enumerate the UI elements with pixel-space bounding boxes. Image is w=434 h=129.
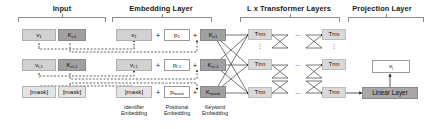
- linear-layer-box: Linear Layer: [362, 87, 418, 99]
- transformer-horizontal-ellipsis-row2: ...: [290, 61, 306, 68]
- embedding-identifier-row2-label: vl-1: [130, 62, 138, 68]
- embedding-identifier-row1: v1: [116, 29, 152, 41]
- input-identifier-row1: v1: [22, 29, 56, 41]
- embedding-identifier-row3-label: [mask]: [125, 89, 143, 95]
- input-identifier-row2-label: vl-1: [35, 62, 43, 68]
- linear-layer-label: Linear Layer: [372, 90, 408, 96]
- caption-positional-embedding-line1: Positional: [166, 104, 189, 110]
- transformer-col2-vertical-ellipsis: ⋮: [322, 45, 346, 48]
- embedding-plus-row2-b: +: [191, 62, 199, 69]
- projection-output-box: vl: [372, 60, 410, 73]
- caption-keyword-embedding: Keyword Embedding: [191, 104, 239, 116]
- embedding-keyword-row2-label: Kvl-1: [207, 62, 218, 68]
- embedding-plus-row2-a: +: [154, 62, 162, 69]
- transformer-cell-col2-row3-label: Trm: [329, 89, 340, 95]
- input-keyword-row1: Kv1: [58, 29, 86, 41]
- transformer-cell-col2-row1-label: Trm: [329, 31, 340, 37]
- caption-identifier-embedding: Identifier Embedding: [110, 104, 158, 116]
- transformer-horizontal-ellipsis-row1: ...: [290, 31, 306, 38]
- caption-keyword-embedding-line2: Embedding: [202, 110, 228, 116]
- input-vertical-ellipsis-2: ⋮: [22, 74, 56, 77]
- transformer-cell-col2-row2-label: Trm: [329, 61, 340, 67]
- projection-output-label: vl: [389, 63, 393, 69]
- transformer-cell-col2-row1: Trm: [322, 29, 346, 40]
- transformer-cell-col1-row1-label: Trm: [255, 31, 266, 37]
- input-keyword-row2: Kvl-1: [58, 59, 86, 71]
- diagram-canvas: Input Embedding Layer L x Transformer La…: [0, 0, 434, 129]
- transformer-cell-col1-row1: Trm: [248, 29, 272, 40]
- embedding-plus-row1-b: +: [191, 32, 199, 39]
- input-identifier-row3-label: [mask]: [30, 89, 48, 95]
- embedding-identifier-row2: vl-1: [116, 59, 152, 71]
- embedding-keyword-row1-label: Kv1: [209, 32, 218, 38]
- caption-identifier-embedding-line1: Identifier: [124, 104, 144, 110]
- embedding-keyword-row1: Kv1: [200, 29, 226, 41]
- caption-identifier-embedding-line2: Embedding: [121, 110, 147, 116]
- input-identifier-row1-label: v1: [36, 32, 41, 38]
- caption-positional-embedding-line2: Embedding: [164, 110, 190, 116]
- transformer-cell-col1-row2-label: Trm: [255, 61, 266, 67]
- embedding-plus-row1-a: +: [154, 32, 162, 39]
- embedding-positional-row3: pmask: [164, 86, 190, 98]
- embedding-positional-row2-label: pl-1: [173, 62, 181, 68]
- input-keyword-row1-label: Kv1: [68, 32, 77, 38]
- embedding-identifier-row1-label: v1: [131, 32, 136, 38]
- transformer-cell-col1-row3: Trm: [248, 87, 272, 98]
- transformer-col1-vertical-ellipsis: ⋮: [248, 45, 272, 48]
- input-vertical-ellipsis-1: ⋮: [22, 45, 56, 48]
- input-keyword-row3: [mask]: [58, 86, 86, 98]
- embedding-keyword-row3: Kmask: [200, 86, 226, 98]
- input-identifier-row3: [mask]: [22, 86, 56, 98]
- embedding-keyword-row2: Kvl-1: [200, 59, 226, 71]
- transformer-cell-col1-row3-label: Trm: [255, 89, 266, 95]
- embedding-positional-row2: pl-1: [164, 59, 190, 71]
- transformer-horizontal-ellipsis-row3: ...: [290, 89, 306, 96]
- embedding-positional-row3-label: pmask: [170, 89, 184, 95]
- input-keyword-row3-label: [mask]: [63, 89, 81, 95]
- transformer-cell-col2-row2: Trm: [322, 59, 346, 70]
- transformer-cell-col2-row3: Trm: [322, 87, 346, 98]
- embedding-plus-row3-b: +: [191, 89, 199, 96]
- caption-keyword-embedding-line1: Keyword: [205, 104, 225, 110]
- embedding-vertical-ellipsis: ⋮: [116, 45, 152, 48]
- embedding-identifier-row3: [mask]: [116, 86, 152, 98]
- transformer-cell-col1-row2: Trm: [248, 59, 272, 70]
- embedding-positional-row1-label: p1: [174, 32, 180, 38]
- embedding-keyword-row3-label: Kmask: [206, 89, 220, 95]
- input-identifier-row2: vl-1: [22, 59, 56, 71]
- embedding-positional-row1: p1: [164, 29, 190, 41]
- input-keyword-row2-label: Kvl-1: [66, 62, 77, 68]
- embedding-plus-row3-a: +: [154, 89, 162, 96]
